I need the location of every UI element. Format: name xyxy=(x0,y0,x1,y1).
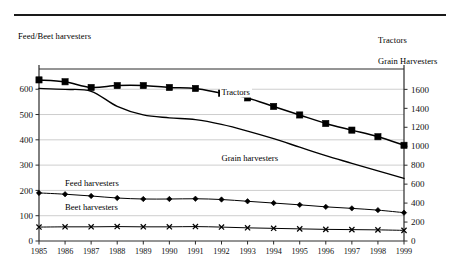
left-axis-tick-label: 200 xyxy=(20,186,34,196)
chart-page: Feed/Beet harvesters Tractors Grain Harv… xyxy=(0,0,459,278)
x-axis-tick-label: 1986 xyxy=(57,247,73,256)
right-axis-tick-label: 800 xyxy=(411,160,425,170)
left-axis-tick-label: 500 xyxy=(20,110,34,120)
marker-square xyxy=(36,77,42,83)
x-axis-tick-label: 1992 xyxy=(213,247,229,256)
marker-diamond xyxy=(297,202,302,207)
marker-diamond xyxy=(62,192,67,197)
left-axis-tick-label: 600 xyxy=(20,84,34,94)
marker-square xyxy=(271,103,277,109)
right-axis-tick-label: 1000 xyxy=(411,141,430,151)
series-label-beet-harvesters: Beet harvesters xyxy=(65,202,118,212)
marker-diamond xyxy=(349,206,354,211)
series-label-feed-harvesters: Feed harvesters xyxy=(65,178,119,188)
marker-diamond xyxy=(193,196,198,201)
marker-diamond xyxy=(401,210,406,215)
x-axis-tick-label: 1989 xyxy=(135,247,151,256)
dual-axis-line-chart: 0100200300400500600020040060080010001200… xyxy=(0,0,459,278)
marker-square xyxy=(375,134,381,140)
x-axis-tick-label: 1997 xyxy=(344,247,360,256)
right-axis-tick-label: 200 xyxy=(411,217,425,227)
marker-diamond xyxy=(271,200,276,205)
marker-diamond xyxy=(323,204,328,209)
right-axis-tick-label: 0 xyxy=(411,236,416,246)
marker-square xyxy=(114,82,120,88)
x-axis-tick-label: 1985 xyxy=(31,247,47,256)
left-axis-tick-label: 0 xyxy=(29,236,34,246)
marker-square xyxy=(166,84,172,90)
x-axis-tick-label: 1996 xyxy=(318,247,334,256)
marker-square xyxy=(192,85,198,91)
marker-diamond xyxy=(36,190,41,195)
x-axis-tick-label: 1991 xyxy=(187,247,203,256)
left-axis-tick-label: 100 xyxy=(20,211,34,221)
series-label-tractors: Tractors xyxy=(222,87,251,97)
x-axis-tick-label: 1999 xyxy=(396,247,412,256)
x-axis-tick-label: 1993 xyxy=(239,247,255,256)
x-axis-tick-label: 1995 xyxy=(292,247,308,256)
marker-diamond xyxy=(167,196,172,201)
marker-square xyxy=(88,84,94,90)
marker-square xyxy=(323,120,329,126)
marker-square xyxy=(62,79,68,85)
marker-diamond xyxy=(141,196,146,201)
series-label-grain-harvesters: Grain harvesters xyxy=(222,153,279,163)
marker-diamond xyxy=(375,207,380,212)
marker-diamond xyxy=(115,195,120,200)
marker-square xyxy=(401,142,407,148)
marker-diamond xyxy=(245,199,250,204)
x-axis-tick-label: 1987 xyxy=(83,247,99,256)
x-axis-tick-label: 1998 xyxy=(370,247,386,256)
right-axis-tick-label: 400 xyxy=(411,198,425,208)
marker-diamond xyxy=(219,197,224,202)
left-axis-tick-label: 400 xyxy=(20,135,34,145)
marker-diamond xyxy=(88,193,93,198)
marker-square xyxy=(349,127,355,133)
x-axis-tick-label: 1988 xyxy=(109,247,125,256)
chart-plot-area: 0100200300400500600020040060080010001200… xyxy=(0,0,459,278)
right-axis-tick-label: 600 xyxy=(411,179,425,189)
x-axis-tick-label: 1994 xyxy=(265,247,281,256)
right-axis-tick-label: 1600 xyxy=(411,85,430,95)
marker-square xyxy=(140,82,146,88)
left-axis-tick-label: 300 xyxy=(20,160,34,170)
right-axis-tick-label: 1400 xyxy=(411,104,430,114)
right-axis-tick-label: 1200 xyxy=(411,122,430,132)
x-axis-tick-label: 1990 xyxy=(161,247,177,256)
marker-square xyxy=(297,112,303,118)
